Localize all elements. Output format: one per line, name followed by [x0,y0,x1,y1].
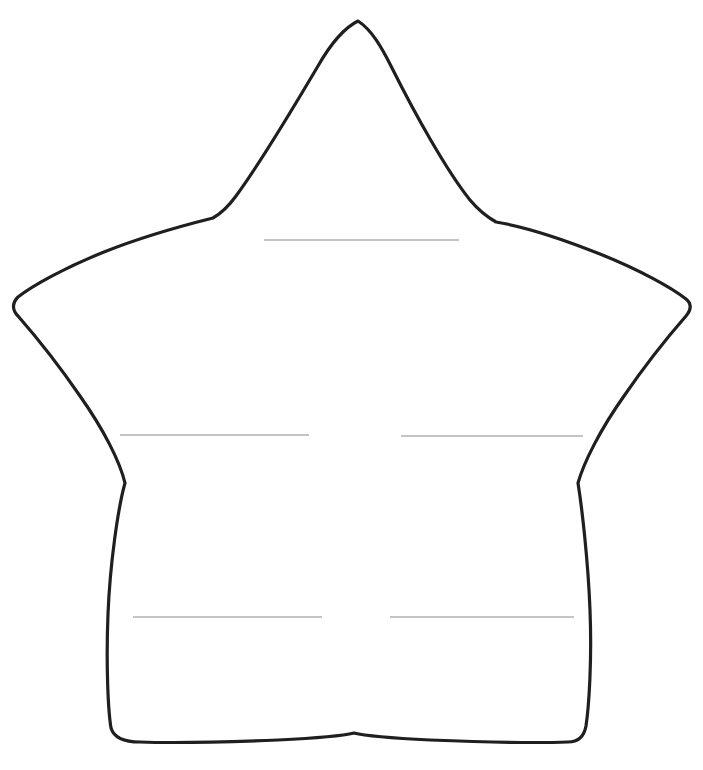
worksheet-canvas [0,0,703,770]
star-outline-shape [14,21,691,742]
star-worksheet-drawing [0,0,703,770]
